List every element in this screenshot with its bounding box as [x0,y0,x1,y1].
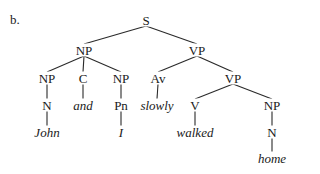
tree-node-NP1: NP [75,44,94,57]
tree-node-NP2: NP [38,72,57,85]
tree-node-VP1: VP [188,44,207,57]
leaf-word-slowly: slowly [139,99,174,112]
tree-node-V: V [189,99,200,112]
tree-node-N1: N [41,99,52,112]
tree-edge-S-VP1 [146,26,197,44]
tree-node-Pn: Pn [113,99,129,112]
tree-edge-VP2-V [195,84,233,99]
tree-node-VP2: VP [224,72,243,85]
tree-node-N2: N [266,126,277,139]
tree-edge-S-NP1 [84,26,146,44]
leaf-word-I: I [118,126,124,139]
tree-node-C: C [78,72,89,85]
tree-node-Av: Av [150,72,167,85]
tree-node-NP3: NP [112,72,131,85]
tree-node-S: S [141,14,150,27]
tree-node-NP4: NP [263,99,282,112]
leaf-word-home: home [257,152,287,165]
leaf-word-walked: walked [176,126,215,139]
leaf-word-John: John [33,126,60,139]
leaf-word-and: and [72,99,94,112]
